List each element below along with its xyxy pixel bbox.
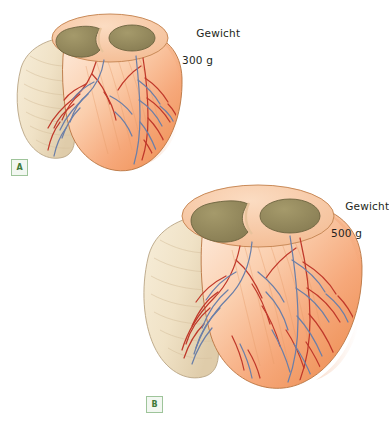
panel-tag-a: A — [11, 159, 28, 176]
weight-label-a-term: Gewicht — [196, 27, 240, 39]
right-ventricle-cavity-a — [109, 25, 155, 51]
weight-label-b: Gewicht 500 g — [331, 186, 389, 267]
weight-label-b-value: 500 g — [331, 227, 389, 241]
right-ventricle-cavity-b — [260, 199, 320, 233]
panel-tag-b-label: B — [151, 401, 157, 409]
weight-label-a: Gewicht 300 g — [182, 13, 240, 94]
panel-tag-b: B — [146, 396, 163, 413]
panel-tag-a-label: A — [16, 164, 22, 172]
weight-label-a-value: 300 g — [182, 54, 240, 68]
specimen-a-group — [17, 14, 183, 171]
weight-label-b-term: Gewicht — [345, 200, 389, 212]
left-ventricle-cavity-a — [56, 26, 100, 57]
